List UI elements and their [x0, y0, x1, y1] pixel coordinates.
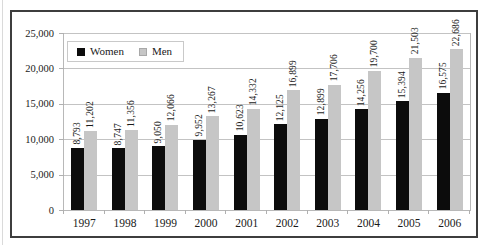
- bar-group-2005: 15,39421,5032005: [389, 33, 430, 210]
- bar-women-2002: [274, 124, 287, 210]
- women-swatch: [77, 48, 85, 56]
- x-tick-label: 2006: [425, 216, 474, 230]
- bar-group-2001: 10,62314,3322001: [226, 33, 267, 210]
- x-tick-mark: [388, 210, 389, 214]
- bar-women-2004: [355, 109, 368, 210]
- page-edge-line: [2, 0, 3, 245]
- data-label-men-2002: 16,899: [288, 60, 299, 87]
- chart-frame-inner: 05,00010,00015,00020,00025,000 Women Men…: [12, 12, 476, 236]
- bar-men-2004: [368, 71, 381, 210]
- bar-men-1997: [84, 131, 97, 210]
- data-label-women-2002: 12,125: [275, 94, 286, 121]
- bar-women-2000: [193, 140, 206, 210]
- bar-men-1998: [125, 130, 138, 210]
- y-tick-label: 10,000: [12, 133, 54, 146]
- data-label-women-1998: 8,747: [113, 123, 124, 145]
- x-tick-mark: [307, 210, 308, 214]
- bar-men-1999: [165, 125, 178, 210]
- data-label-men-1999: 12,066: [166, 94, 177, 121]
- chart-frame: 05,00010,00015,00020,00025,000 Women Men…: [10, 10, 478, 238]
- y-tick-label: 0: [12, 204, 54, 217]
- bar-women-2001: [234, 135, 247, 210]
- data-label-men-2000: 13,267: [207, 86, 218, 113]
- y-tick-label: 20,000: [12, 62, 54, 75]
- data-label-women-2003: 12,899: [316, 88, 327, 115]
- data-label-men-1998: 11,356: [126, 100, 137, 127]
- bar-group-2000: 9,95213,2672000: [186, 33, 227, 210]
- data-label-women-2005: 15,394: [397, 71, 408, 98]
- bar-women-1999: [152, 146, 165, 210]
- data-label-men-2003: 17,706: [329, 54, 340, 81]
- x-tick-mark: [469, 210, 470, 214]
- legend-item-women: Women: [77, 45, 124, 58]
- bar-women-1998: [112, 148, 125, 210]
- bar-men-2003: [328, 85, 341, 210]
- y-tick-label: 15,000: [12, 97, 54, 110]
- data-label-women-1999: 9,050: [153, 121, 164, 143]
- legend-label-women: Women: [90, 45, 124, 58]
- bar-group-2003: 12,89917,7062003: [308, 33, 349, 210]
- bar-group-2004: 14,25619,7002004: [348, 33, 389, 210]
- bar-men-2000: [206, 116, 219, 210]
- data-label-men-2001: 14,332: [248, 78, 259, 105]
- data-label-men-2005: 21,503: [410, 27, 421, 54]
- bar-group-2002: 12,12516,8992002: [267, 33, 308, 210]
- bar-women-1997: [71, 148, 84, 210]
- y-tick-label: 5,000: [12, 168, 54, 181]
- plot-area: Women Men 8,79311,20219978,74711,3561998…: [63, 33, 471, 211]
- x-tick-mark: [347, 210, 348, 214]
- data-label-men-2006: 22,686: [451, 19, 462, 46]
- bar-men-2002: [287, 90, 300, 210]
- bar-women-2006: [437, 93, 450, 210]
- x-tick-mark: [428, 210, 429, 214]
- x-tick-mark: [185, 210, 186, 214]
- legend-label-men: Men: [152, 45, 172, 58]
- y-tick-label: 25,000: [12, 27, 54, 40]
- data-label-men-2004: 19,700: [369, 40, 380, 67]
- x-tick-mark: [104, 210, 105, 214]
- bar-group-2006: 16,57522,6862006: [429, 33, 470, 210]
- data-label-women-2001: 10,623: [235, 104, 246, 131]
- legend-item-men: Men: [139, 45, 172, 58]
- data-label-women-2006: 16,575: [438, 62, 449, 89]
- x-tick-mark: [144, 210, 145, 214]
- bar-men-2005: [409, 58, 422, 210]
- x-tick-mark: [225, 210, 226, 214]
- data-label-men-1997: 11,202: [85, 101, 96, 128]
- bar-men-2001: [247, 109, 260, 210]
- x-tick-mark: [63, 210, 64, 214]
- bar-women-2003: [315, 119, 328, 210]
- data-label-women-1997: 8,793: [72, 122, 83, 144]
- legend: Women Men: [67, 41, 184, 62]
- bar-men-2006: [450, 49, 463, 210]
- bar-women-2005: [396, 101, 409, 210]
- y-axis: 05,00010,00015,00020,00025,000: [12, 12, 58, 236]
- x-tick-mark: [266, 210, 267, 214]
- data-label-women-2000: 9,952: [194, 114, 205, 136]
- data-label-women-2004: 14,256: [356, 79, 367, 106]
- men-swatch: [139, 48, 147, 56]
- chart-figure: 05,00010,00015,00020,00025,000 Women Men…: [0, 0, 490, 245]
